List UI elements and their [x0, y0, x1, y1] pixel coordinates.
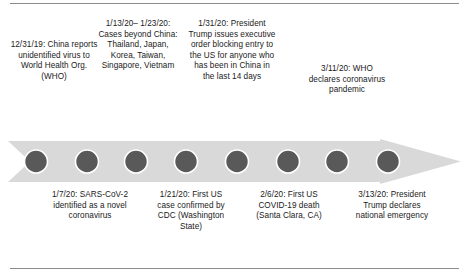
timeline-marker [76, 150, 99, 173]
timeline-marker [125, 150, 148, 173]
timeline-marker [175, 150, 198, 173]
timeline-figure: 12/31/19: China reports unidentified vir… [0, 0, 469, 279]
timeline-marker [226, 150, 249, 173]
event-label-above-4: 3/11/20: WHO declares coronavirus pandem… [306, 64, 388, 96]
event-label-above-1: 12/31/19: China reports unidentified vir… [8, 40, 100, 82]
event-label-above-3: 1/31/20: President Trump issues executiv… [188, 19, 276, 83]
event-label-above-2: 1/13/20– 1/23/20: Cases beyond China: Th… [96, 19, 180, 72]
event-label-below-3: 2/6/20: First US COVID-19 death (Santa C… [248, 190, 330, 222]
timeline-arrow-band [8, 139, 461, 184]
bottom-divider-rule [10, 268, 459, 269]
event-label-below-2: 1/21/20: First US case confirmed by CDC … [150, 190, 232, 232]
timeline-marker [277, 150, 300, 173]
timeline-marker [326, 150, 349, 173]
top-divider-rule [10, 3, 459, 4]
event-label-below-1: 1/7/20: SARS-CoV-2 identified as a novel… [46, 190, 134, 222]
timeline-marker [25, 150, 48, 173]
timeline-marker [377, 150, 400, 173]
event-label-below-4: 3/13/20: President Trump declares nation… [355, 190, 429, 222]
